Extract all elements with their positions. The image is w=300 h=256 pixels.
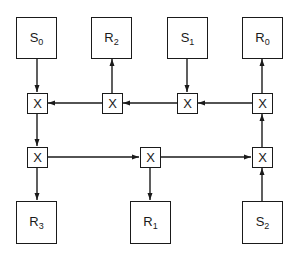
switch-label: X: [108, 96, 117, 111]
sender-s1-label: S1: [181, 30, 195, 47]
receiver-r1-box: R1: [130, 201, 171, 244]
switch-label: X: [33, 150, 42, 165]
switch-label: X: [258, 96, 267, 111]
switch-label: X: [183, 96, 192, 111]
sender-s2-label: S2: [256, 214, 270, 231]
sender-s0-box: S0: [16, 17, 57, 59]
sender-s0-label: S0: [30, 30, 44, 47]
receiver-r0-label: R0: [255, 30, 269, 47]
switch-label: X: [146, 150, 155, 165]
switch-upper-0: X: [27, 93, 48, 114]
sender-s2-box: S2: [242, 201, 283, 244]
receiver-r1-label: R1: [143, 214, 157, 231]
switch-upper-2: X: [177, 93, 198, 114]
receiver-r2-box: R2: [91, 17, 132, 59]
switch-upper-3: X: [252, 93, 273, 114]
receiver-r3-box: R3: [16, 201, 57, 244]
switch-upper-1: X: [102, 93, 123, 114]
switch-lower-1: X: [140, 147, 161, 168]
switch-lower-0: X: [27, 147, 48, 168]
receiver-r3-label: R3: [29, 214, 43, 231]
switch-label: X: [33, 96, 42, 111]
switch-lower-2: X: [252, 147, 273, 168]
receiver-r2-label: R2: [104, 30, 118, 47]
switch-label: X: [258, 150, 267, 165]
sender-s1-box: S1: [167, 17, 208, 59]
receiver-r0-box: R0: [242, 17, 283, 59]
